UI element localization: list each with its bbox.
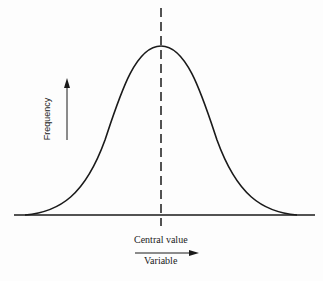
arrow-up-icon — [64, 78, 70, 88]
y-axis-label: Frequency — [42, 98, 52, 141]
x-axis-label: Variable — [144, 255, 177, 266]
central-value-label: Central value — [134, 234, 188, 245]
arrow-right-icon — [189, 250, 199, 256]
diagram-canvas: Central value Variable Frequency — [0, 0, 323, 281]
